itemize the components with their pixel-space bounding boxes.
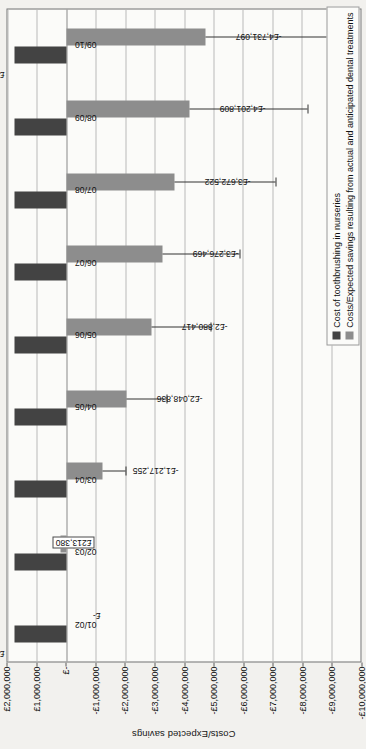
- bar-cost-toothbrushing[interactable]: [14, 553, 66, 570]
- bar-slot-cost: [7, 263, 360, 280]
- bar-value-label-savings: -£2,880,417: [181, 321, 227, 331]
- bar-value-label-savings: -£3,276,469: [192, 248, 238, 258]
- plot-area-wrapper: £1,762,621£-01/02£213,38002/03-£1,217,25…: [6, 8, 361, 662]
- bar-slot-cost: £1,762,621: [7, 625, 360, 642]
- category-group: -£3,276,46906/07: [7, 226, 360, 298]
- y-axis-tick-labels: £2,000,000£1,000,000£--£1,000,000-£2,000…: [6, 662, 361, 728]
- bar-slot-savings: -£2,880,417: [7, 318, 360, 335]
- bar-value-label-cost: £1,762,621: [0, 648, 4, 658]
- category-group: -£3,672,52207/08: [7, 154, 360, 226]
- legend-label: Cost of toothbrushing in nurseries: [331, 193, 341, 328]
- y-tick-label: -£5,000,000: [208, 666, 218, 714]
- bar-value-label-savings: -£3,672,522: [204, 176, 250, 186]
- bar-value-label-cost: £1,762,621: [0, 69, 4, 79]
- category-axis-label: 07/08: [74, 184, 96, 194]
- bar-cost-toothbrushing[interactable]: [14, 480, 66, 497]
- bar-slot-cost: £1,762,621: [7, 46, 360, 63]
- legend-item[interactable]: Cost of toothbrushing in nurseries: [331, 12, 341, 339]
- category-groups: £1,762,621£-01/02£213,38002/03-£1,217,25…: [7, 9, 360, 661]
- error-bar-cap: [275, 177, 276, 186]
- bar-cost-toothbrushing[interactable]: [14, 263, 66, 280]
- bar-slot-savings: -£3,672,522: [7, 173, 360, 190]
- bar-slot-savings: £-: [7, 607, 360, 624]
- bar-cost-toothbrushing[interactable]: [14, 118, 66, 135]
- bar-cost-toothbrushing[interactable]: [14, 191, 66, 208]
- y-tick-label: -£9,000,000: [326, 666, 336, 714]
- bar-slot-cost: [7, 553, 360, 570]
- legend-label: Costs/Expected savings resulting from ac…: [344, 12, 354, 327]
- category-group: -£2,048,83604/05: [7, 371, 360, 443]
- bar-value-label-savings: -£1,217,255: [132, 465, 178, 475]
- bar-slot-savings: -£4,201,809: [7, 100, 360, 117]
- plot-area: £1,762,621£-01/02£213,38002/03-£1,217,25…: [6, 8, 361, 662]
- bar-slot-cost: [7, 118, 360, 135]
- bar-slot-savings: -£2,048,836: [7, 390, 360, 407]
- error-bar-cap: [239, 249, 240, 258]
- category-axis-label: 03/04: [74, 474, 96, 484]
- y-tick-label: -£8,000,000: [297, 666, 307, 714]
- category-group: -£4,201,80908/09: [7, 82, 360, 154]
- bar-value-label-savings: -£2,048,836: [156, 393, 202, 403]
- bar-slot-savings: £213,380: [7, 535, 360, 552]
- category-axis-label: 04/05: [74, 401, 96, 411]
- y-tick-label: -£10,000,000: [356, 666, 366, 719]
- bar-cost-toothbrushing[interactable]: [14, 408, 66, 425]
- bar-slot-savings: -£3,276,469: [7, 245, 360, 262]
- y-tick-label: -£3,000,000: [149, 666, 159, 714]
- category-group: -£1,217,25503/04: [7, 444, 360, 516]
- y-tick-label: £-: [60, 666, 70, 674]
- error-bar-cap: [125, 466, 126, 475]
- category-axis-label: 05/06: [74, 329, 96, 339]
- category-axis-label: 01/02: [74, 619, 96, 629]
- category-group: £1,762,621-£4,731,09709/10: [7, 9, 360, 81]
- category-axis-label: 06/07: [74, 257, 96, 267]
- y-tick-label: £1,000,000: [31, 666, 41, 711]
- category-group: -£2,880,41705/06: [7, 299, 360, 371]
- bar-slot-cost: [7, 480, 360, 497]
- y-tick-label: -£1,000,000: [90, 666, 100, 714]
- y-tick-label: -£6,000,000: [238, 666, 248, 714]
- category-axis-label: 02/03: [74, 546, 96, 556]
- y-axis-title: Costs/Expected savings: [6, 728, 361, 741]
- y-tick-label: -£4,000,000: [179, 666, 189, 714]
- category-axis-label: 09/10: [74, 39, 96, 49]
- y-tick-label: -£7,000,000: [267, 666, 277, 714]
- y-tick-label: -£2,000,000: [119, 666, 129, 714]
- bar-value-label-savings: -£4,201,809: [220, 103, 266, 113]
- bar-cost-toothbrushing[interactable]: [14, 46, 66, 63]
- error-bar-line: [102, 470, 125, 471]
- bar-value-label-savings: -£4,731,097: [235, 31, 281, 41]
- category-group: £213,38002/03: [7, 516, 360, 588]
- error-bar-cap: [307, 104, 308, 113]
- legend-item[interactable]: Costs/Expected savings resulting from ac…: [344, 12, 354, 339]
- bar-slot-cost: [7, 191, 360, 208]
- bar-slot-savings: -£1,217,255: [7, 462, 360, 479]
- category-axis-label: 08/09: [74, 112, 96, 122]
- category-group: £1,762,621£-01/02: [7, 589, 360, 661]
- y-tick-label: £2,000,000: [1, 666, 11, 711]
- bar-cost-toothbrushing[interactable]: [14, 336, 66, 353]
- bar-slot-savings: -£4,731,097: [7, 28, 360, 45]
- bar-cost-toothbrushing[interactable]: [14, 625, 66, 642]
- legend-swatch-icon: [345, 331, 353, 339]
- bar-slot-cost: [7, 408, 360, 425]
- bar-slot-cost: [7, 336, 360, 353]
- legend-swatch-icon: [332, 331, 340, 339]
- chart-legend: Cost of toothbrushing in nurseriesCosts/…: [326, 6, 359, 345]
